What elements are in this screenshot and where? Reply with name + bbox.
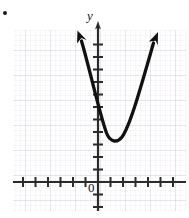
graph-figure — [0, 0, 189, 218]
origin-label: 0 — [88, 181, 95, 194]
y-axis-label: y — [87, 9, 93, 22]
bullet-marker — [3, 11, 7, 15]
coordinate-plane-svg — [0, 0, 189, 218]
